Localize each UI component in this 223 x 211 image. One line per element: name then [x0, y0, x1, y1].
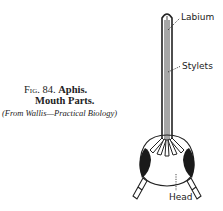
- label-labium: Labium: [181, 12, 214, 22]
- labium-tube: [162, 14, 172, 140]
- label-head: Head: [169, 192, 193, 202]
- stylet-bases: [150, 138, 184, 156]
- aphis-mouthparts-diagram: Labium Stylets Head: [0, 0, 223, 211]
- leader-lines: [168, 18, 181, 191]
- label-stylets: Stylets: [182, 61, 213, 71]
